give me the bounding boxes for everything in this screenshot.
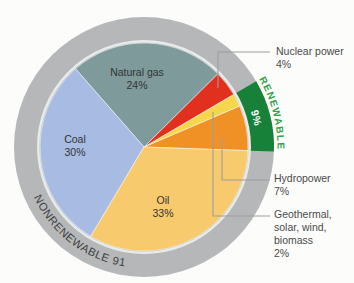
callout-nuclear-power-line2: 4% (276, 58, 344, 71)
energy-pie-figure: NONRENEWABLE 91%RENEWABLE9% Natural gas … (0, 0, 354, 283)
callout-geo-line2: solar, wind, (274, 221, 332, 234)
callout-geo-line4: 2% (274, 247, 332, 260)
callout-geo-line3: biomass (274, 234, 332, 247)
slice-label-natural-gas-pct: 24% (110, 79, 164, 92)
slice-label-coal-pct: 30% (64, 146, 86, 159)
callout-hydropower-line1: Hydropower (274, 172, 331, 185)
slice-label-oil: Oil 33% (152, 194, 173, 219)
callout-geothermal-solar-wind-biomass: Geothermal, solar, wind, biomass 2% (274, 208, 332, 260)
slice-label-coal-name: Coal (64, 133, 86, 146)
callout-hydropower: Hydropower 7% (274, 172, 331, 198)
slice-label-natural-gas-name: Natural gas (110, 66, 164, 79)
slice-label-natural-gas: Natural gas 24% (110, 66, 164, 91)
callout-nuclear-power-line1: Nuclear power (276, 45, 344, 58)
callout-geo-line1: Geothermal, (274, 208, 332, 221)
callout-nuclear-power: Nuclear power 4% (276, 45, 344, 71)
slice-label-oil-pct: 33% (152, 207, 173, 220)
slice-label-coal: Coal 30% (64, 133, 86, 158)
callout-hydropower-line2: 7% (274, 185, 331, 198)
slice-label-oil-name: Oil (152, 194, 173, 207)
